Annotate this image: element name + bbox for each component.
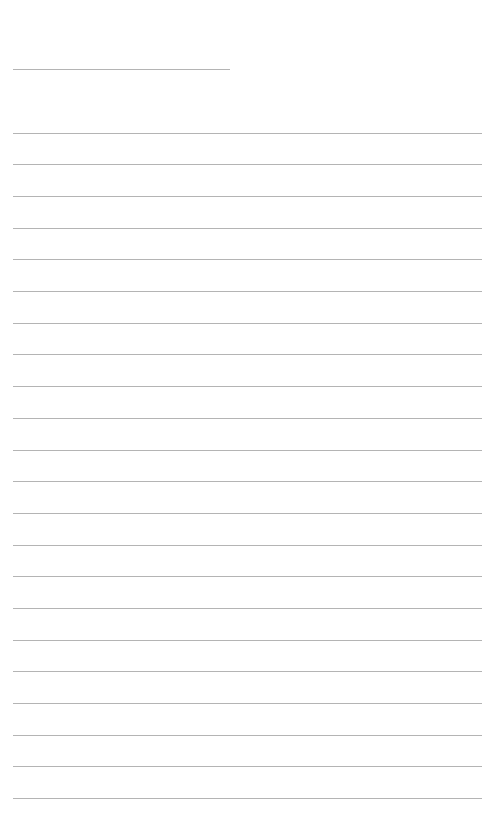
ruled-line [13, 671, 482, 672]
ruled-line [13, 418, 482, 419]
ruled-line [13, 133, 482, 134]
ruled-line [13, 323, 482, 324]
ruled-line [13, 386, 482, 387]
ruled-line [13, 228, 482, 229]
ruled-line [13, 545, 482, 546]
ruled-line [13, 513, 482, 514]
ruled-line [13, 259, 482, 260]
ruled-line [13, 798, 482, 799]
ruled-line [13, 703, 482, 704]
ruled-line [13, 450, 482, 451]
ruled-line [13, 196, 482, 197]
ruled-line [13, 766, 482, 767]
ruled-line [13, 640, 482, 641]
ruled-lines [0, 0, 504, 827]
ruled-line [13, 608, 482, 609]
lined-page [0, 0, 504, 827]
ruled-line [13, 481, 482, 482]
ruled-line [13, 735, 482, 736]
ruled-line [13, 576, 482, 577]
ruled-line [13, 164, 482, 165]
ruled-line [13, 354, 482, 355]
ruled-line [13, 291, 482, 292]
